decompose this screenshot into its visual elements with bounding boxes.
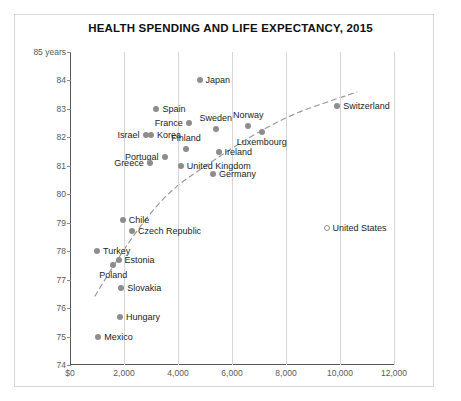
gridline-vertical — [124, 52, 125, 365]
data-point-label: Estonia — [125, 255, 155, 265]
x-tick-label: 6,000 — [221, 368, 242, 378]
x-tick-label: 8,000 — [275, 368, 296, 378]
y-tick-mark — [67, 80, 71, 81]
gridline-vertical — [394, 52, 395, 365]
x-tick-label: 12,000 — [381, 368, 407, 378]
y-tick-label: 82 — [57, 132, 66, 142]
data-point — [110, 262, 116, 268]
data-point — [116, 257, 122, 263]
data-point — [210, 171, 216, 177]
data-point — [245, 123, 251, 129]
data-point — [197, 77, 203, 83]
data-point — [148, 132, 154, 138]
data-point — [120, 217, 126, 223]
data-point-label: Czech Republic — [138, 226, 201, 236]
data-point-label: Chile — [129, 215, 150, 225]
data-point — [117, 314, 123, 320]
data-point — [153, 106, 159, 112]
y-tick-mark — [67, 365, 71, 366]
data-point — [186, 120, 192, 126]
x-tick-label: 2,000 — [113, 368, 134, 378]
data-point — [95, 334, 101, 340]
data-point — [178, 163, 184, 169]
data-point-label: Ireland — [225, 147, 253, 157]
data-point-label: Finland — [171, 133, 201, 143]
chart-figure: HEALTH SPENDING AND LIFE EXPECTANCY, 201… — [0, 0, 461, 401]
y-tick-label: 80 — [57, 189, 66, 199]
gridline-vertical — [286, 52, 287, 365]
y-tick-label: 84 — [57, 75, 66, 85]
data-point — [147, 160, 153, 166]
data-point — [129, 228, 135, 234]
y-tick-mark — [67, 280, 71, 281]
y-tick-label: 79 — [57, 218, 66, 228]
x-tick-label: 10,000 — [327, 368, 353, 378]
y-tick-label: 83 — [57, 104, 66, 114]
data-point — [118, 285, 124, 291]
y-axis-ticks: 747576777879808182838485 years — [0, 0, 66, 401]
data-point-label: United States — [333, 223, 387, 233]
y-tick-label: 85 years — [33, 47, 66, 57]
y-tick-label: 77 — [57, 275, 66, 285]
y-tick-mark — [67, 251, 71, 252]
y-tick-mark — [67, 308, 71, 309]
y-tick-mark — [67, 337, 71, 338]
data-point-label: France — [155, 118, 183, 128]
chart-title: HEALTH SPENDING AND LIFE EXPECTANCY, 201… — [0, 22, 461, 34]
data-point-label: Hungary — [126, 312, 160, 322]
data-point-label: Luxembourg — [237, 137, 287, 147]
y-tick-mark — [67, 137, 71, 138]
x-tick-label: $0 — [65, 368, 74, 378]
y-tick-mark — [67, 194, 71, 195]
y-tick-mark — [67, 166, 71, 167]
data-point — [162, 154, 168, 160]
gridline-vertical — [340, 52, 341, 365]
data-point-label: Germany — [219, 169, 256, 179]
y-tick-mark — [67, 109, 71, 110]
data-point — [213, 126, 219, 132]
data-point — [324, 225, 330, 231]
data-point-label: Israel — [118, 130, 140, 140]
data-point-label: Switzerland — [343, 101, 390, 111]
y-tick-label: 75 — [57, 332, 66, 342]
data-point — [334, 103, 340, 109]
data-point-label: Poland — [99, 270, 127, 280]
data-point-label: Japan — [206, 75, 231, 85]
data-point-label: Spain — [162, 104, 185, 114]
data-point-label: Greece — [114, 158, 144, 168]
y-tick-mark — [67, 52, 71, 53]
y-tick-label: 78 — [57, 246, 66, 256]
data-point-label: Norway — [233, 110, 264, 120]
y-tick-label: 81 — [57, 161, 66, 171]
y-tick-label: 76 — [57, 303, 66, 313]
data-point — [259, 129, 265, 135]
data-point-label: Slovakia — [127, 283, 161, 293]
data-point — [216, 149, 222, 155]
x-tick-label: 4,000 — [167, 368, 188, 378]
data-point — [94, 248, 100, 254]
y-tick-mark — [67, 223, 71, 224]
gridline-vertical — [178, 52, 179, 365]
data-point-label: Sweden — [200, 113, 233, 123]
data-point-label: Mexico — [104, 332, 133, 342]
data-point — [183, 146, 189, 152]
gridline-vertical — [232, 52, 233, 365]
